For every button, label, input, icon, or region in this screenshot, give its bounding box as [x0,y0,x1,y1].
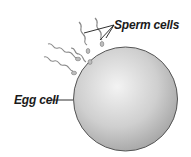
sperm-leader-lines [84,25,114,40]
egg-cell-label: Egg cell [14,93,58,107]
sperm-cell-1 [79,22,90,54]
sperm-cell-2 [95,18,104,47]
sperm-cell-4 [44,57,77,75]
sperm-cells-label: Sperm cells [114,18,179,32]
